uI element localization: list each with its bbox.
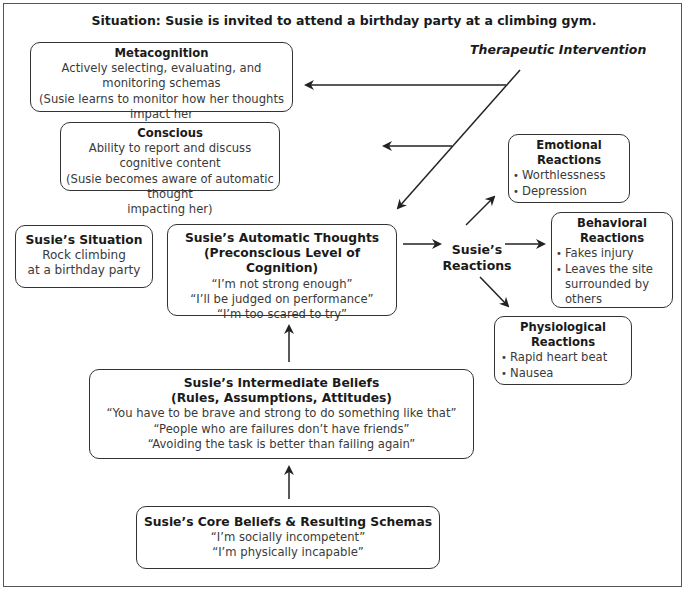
- reactions-to-physiological-arrow: [480, 277, 508, 306]
- arrows-layer: [0, 0, 688, 594]
- reactions-to-emotional-arrow: [466, 197, 494, 225]
- intervention-diagonal-arrow: [398, 70, 520, 208]
